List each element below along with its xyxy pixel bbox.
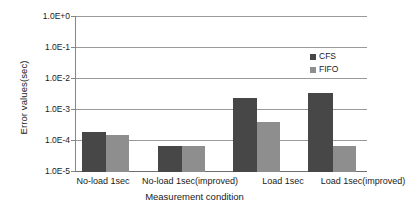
y-tick-mark-1e-3 <box>71 109 76 110</box>
bar-cfs-2[interactable] <box>233 98 257 172</box>
y-tick-mark-1e-1 <box>71 47 76 48</box>
legend-entry-cfs[interactable]: CFS <box>310 51 362 62</box>
y-tick-label-4: 1.0E-4 <box>18 136 70 145</box>
y-tick-mark-1e-4 <box>71 140 76 141</box>
legend-label-cfs: CFS <box>319 52 336 61</box>
x-tick-label-3: Load 1sec(improved) <box>303 176 410 187</box>
y-tick-label-2: 1.0E-2 <box>18 74 70 83</box>
bar-fifo-0[interactable] <box>106 135 129 172</box>
bar-group-3 <box>308 16 356 172</box>
y-tick-mark-1e0 <box>71 16 76 17</box>
bar-group-1 <box>158 16 205 172</box>
bar-fifo-2[interactable] <box>257 122 280 172</box>
x-axis-tick-labels: No-load 1sec No-load 1sec(improved) Load… <box>60 176 380 190</box>
bar-cfs-3[interactable] <box>308 93 333 172</box>
x-tick-label-1: No-load 1sec(improved) <box>130 176 250 187</box>
bar-group-0 <box>82 16 129 172</box>
legend-label-fifo: FIFO <box>319 65 338 74</box>
bar-fifo-1[interactable] <box>182 146 205 172</box>
y-tick-mark-1e-2 <box>71 78 76 79</box>
y-tick-mark-1e-5 <box>71 171 76 172</box>
bar-fifo-3[interactable] <box>333 146 356 172</box>
x-axis-title: Measurement condition <box>0 191 389 202</box>
legend: CFS FIFO <box>310 51 362 77</box>
bar-group-2 <box>233 16 280 172</box>
y-tick-label-3: 1.0E-3 <box>18 105 70 114</box>
plot-area <box>75 16 367 172</box>
bar-cfs-0[interactable] <box>82 132 106 172</box>
bar-cfs-1[interactable] <box>158 146 182 172</box>
legend-entry-fifo[interactable]: FIFO <box>310 64 362 75</box>
y-tick-label-5: 1.0E-5 <box>18 167 70 176</box>
legend-swatch-fifo <box>310 67 316 73</box>
legend-swatch-cfs <box>310 54 316 60</box>
y-tick-label-0: 1.0E+0 <box>18 12 70 21</box>
y-tick-label-1: 1.0E-1 <box>18 43 70 52</box>
